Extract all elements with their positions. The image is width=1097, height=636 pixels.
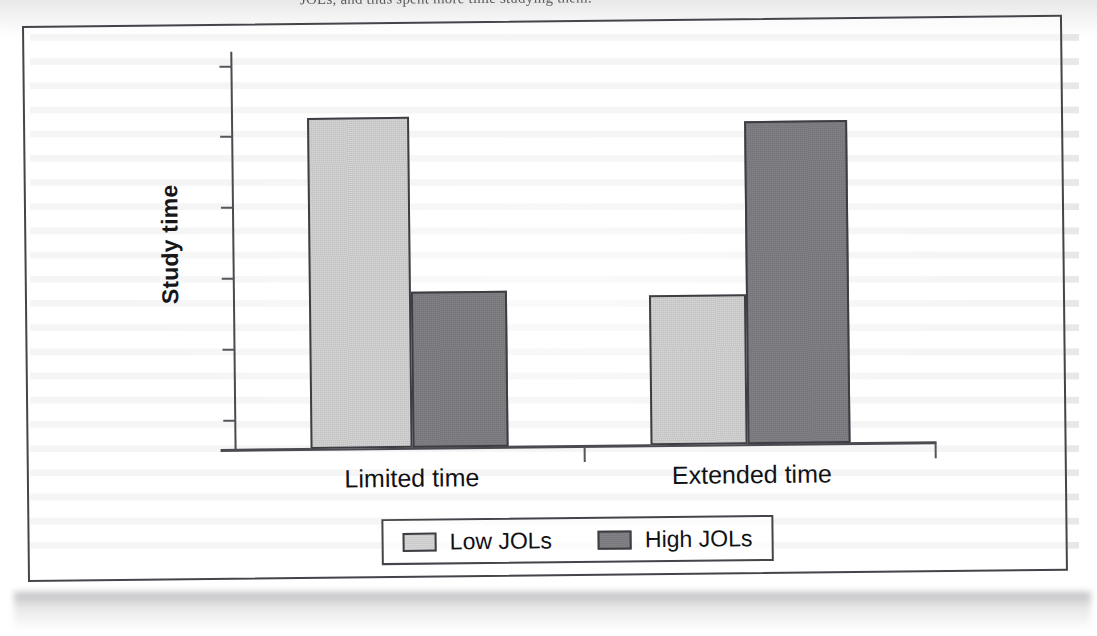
figure: Study time Limited time Extended time Lo…: [22, 15, 1068, 582]
plot-area: Study time Limited time Extended time: [231, 86, 935, 450]
running-text-line: JOLs, and thus spent more time studying …: [300, 0, 1000, 8]
x-axis-tick-end: [935, 443, 937, 458]
legend-item-low-jols[interactable]: Low JOLs: [403, 527, 553, 556]
chart-legend: Low JOLs High JOLs: [381, 515, 773, 565]
bar-series-group: [231, 86, 935, 450]
high-jols-swatch-icon: [598, 530, 632, 549]
scanned-page: JOLs, and thus spent more time studying …: [0, 0, 1097, 636]
bar-extended-high-jols: [744, 120, 850, 444]
legend-label-low-jols: Low JOLs: [450, 527, 553, 555]
bar-limited-low-jols: [307, 117, 413, 449]
x-axis-category-limited: Limited time: [287, 462, 537, 494]
y-axis-label: Study time: [156, 184, 184, 304]
y-axis-tick: [219, 66, 231, 68]
legend-item-high-jols[interactable]: High JOLs: [598, 525, 753, 554]
x-axis-tick-center: [584, 447, 586, 462]
bar-extended-low-jols: [649, 294, 748, 445]
legend-label-high-jols: High JOLs: [645, 525, 753, 553]
bar-limited-high-jols: [411, 291, 509, 448]
low-jols-swatch-icon: [403, 532, 437, 551]
x-axis-category-extended: Extended time: [627, 459, 877, 491]
